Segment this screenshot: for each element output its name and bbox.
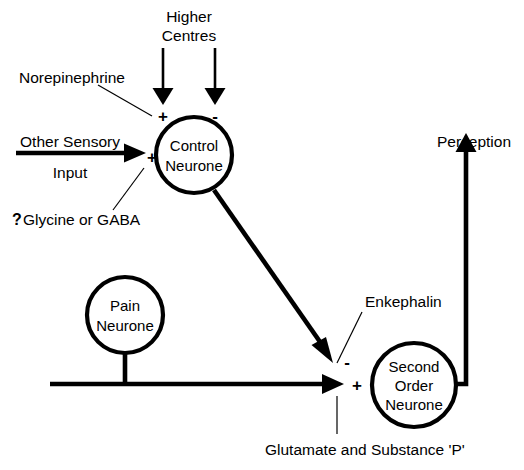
control-neurone-label-line2: Neurone — [165, 157, 223, 174]
higher-centres-label-line2: Centres — [162, 27, 217, 44]
higher-centres-excitatory-sign: + — [158, 107, 168, 126]
norepinephrine-leader-line — [98, 85, 152, 116]
glutamate-substance-p-label: Glutamate and Substance 'P' — [265, 441, 465, 458]
perception-label: Perception — [437, 133, 511, 150]
higher-centres-inhibitory-arrow — [205, 48, 226, 105]
second-order-neurone-label-line1: Second — [389, 358, 440, 375]
pain-gate-diagram: Higher Centres Norepinephrine Other Sens… — [0, 0, 524, 470]
pain-neurone-label-line1: Pain — [110, 297, 140, 314]
pain-neurone-axon-terminal-arrow — [50, 374, 344, 394]
enkephalin-label: Enkephalin — [365, 293, 442, 310]
higher-centres-inhibitory-sign: - — [212, 107, 218, 126]
glycine-gaba-label: Glycine or GABA — [23, 211, 141, 228]
control-to-synapse-inhibitory-sign: - — [344, 353, 350, 372]
diagram-canvas: Higher Centres Norepinephrine Other Sens… — [0, 0, 524, 470]
pain-neurone-node[interactable] — [87, 277, 163, 353]
other-sensory-input-label-line2: Input — [53, 164, 88, 181]
second-order-neurone-label-line2: Order — [395, 377, 433, 394]
control-neurone-node[interactable] — [156, 117, 232, 193]
second-order-to-perception-arrow — [455, 133, 477, 384]
control-to-synapse-arrow — [214, 190, 333, 363]
higher-centres-label-line1: Higher — [166, 8, 212, 25]
glycine-gaba-question-marker: ? — [12, 211, 22, 228]
pain-to-second-order-excitatory-sign: + — [352, 376, 362, 395]
control-neurone-label-line1: Control — [170, 137, 218, 154]
norepinephrine-label: Norepinephrine — [19, 69, 125, 86]
higher-centres-excitatory-arrow — [153, 48, 174, 105]
second-order-neurone-label-line3: Neurone — [385, 396, 443, 413]
pain-neurone-label-line2: Neurone — [96, 317, 154, 334]
other-sensory-input-label-line1: Other Sensory — [20, 133, 120, 150]
glycine-gaba-leader-line — [113, 168, 144, 210]
other-sensory-excitatory-sign: + — [147, 148, 157, 167]
